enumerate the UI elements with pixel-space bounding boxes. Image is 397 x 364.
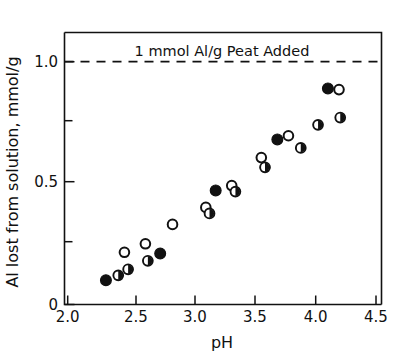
- y-tick-label-05: 0.5: [34, 173, 58, 191]
- x-tick-label-40: 4.0: [304, 308, 328, 326]
- x-tick-label-25: 2.5: [124, 308, 148, 326]
- data-point-open-circle: [120, 247, 130, 257]
- data-point-open-circle: [284, 131, 294, 141]
- x-tick-label-20: 2.0: [56, 308, 80, 326]
- data-point-open-circle: [168, 220, 178, 230]
- data-point-filled-circle: [101, 275, 112, 286]
- data-point-half-filled-circle: [335, 113, 345, 123]
- scatter-plot: 1 mmol Al/g Peat Added 1.0 0.5 0 2.0 2.5…: [0, 0, 397, 364]
- data-point-half-filled-circle: [313, 120, 323, 130]
- data-point-layer: [101, 83, 346, 286]
- data-point-half-filled-circle: [296, 143, 306, 153]
- data-point-open-circle: [334, 85, 344, 95]
- data-point-half-filled-circle: [231, 187, 241, 197]
- data-point-half-filled-circle: [205, 209, 215, 219]
- data-point-half-filled-circle: [123, 264, 133, 274]
- y-tick-label-1: 1.0: [34, 53, 58, 71]
- y-axis-ticks: [65, 62, 75, 305]
- data-point-half-filled-circle: [113, 270, 123, 280]
- reference-line-label: 1 mmol Al/g Peat Added: [135, 43, 310, 59]
- data-point-half-filled-circle: [260, 162, 270, 172]
- data-point-open-circle: [141, 239, 151, 249]
- x-tick-label-45: 4.5: [364, 308, 388, 326]
- chart-figure: 1 mmol Al/g Peat Added 1.0 0.5 0 2.0 2.5…: [0, 0, 397, 364]
- data-point-filled-circle: [272, 134, 283, 145]
- data-point-half-filled-circle: [143, 256, 153, 266]
- y-axis-title: Al lost from solution, mmol/g: [3, 56, 22, 287]
- x-tick-label-30: 3.0: [183, 308, 207, 326]
- data-point-filled-circle: [210, 185, 221, 196]
- data-point-filled-circle: [323, 83, 334, 94]
- x-tick-label-35: 3.5: [243, 308, 267, 326]
- x-axis-ticks: [68, 296, 376, 305]
- data-point-filled-circle: [155, 248, 166, 259]
- x-axis-title: pH: [211, 333, 233, 352]
- plot-frame: [65, 33, 382, 305]
- data-point-open-circle: [257, 153, 267, 163]
